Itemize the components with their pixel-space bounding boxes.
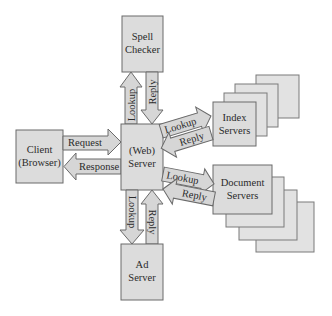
ad-reply-arrow: Reply bbox=[141, 190, 163, 244]
ad-server-label-line1: Ad bbox=[136, 259, 150, 270]
web-server-label-line2: Server bbox=[128, 158, 156, 169]
spell-checker-label-line1: Spell bbox=[132, 31, 154, 42]
spell-checker-node: Spell Checker bbox=[122, 16, 163, 72]
document-servers-node: Document Servers bbox=[213, 165, 314, 252]
spell-lookup-label: Lookup bbox=[126, 89, 137, 122]
document-servers-label-line1: Document bbox=[221, 177, 265, 188]
spell-checker-label-line2: Checker bbox=[125, 44, 160, 55]
request-label: Request bbox=[68, 137, 102, 148]
ad-server-label-line2: Server bbox=[128, 272, 156, 283]
client-label-line2: (Browser) bbox=[18, 157, 61, 169]
web-search-architecture-diagram: Spell Checker Lookup Reply Client (Brows… bbox=[0, 0, 332, 316]
response-label: Response bbox=[79, 161, 120, 172]
spell-reply-arrow: Reply bbox=[141, 72, 163, 124]
client-label-line1: Client bbox=[27, 144, 53, 155]
index-servers-label-line2: Servers bbox=[219, 125, 251, 136]
web-server-label-line1: (Web) bbox=[129, 145, 155, 157]
ad-lookup-label: Lookup bbox=[127, 196, 138, 229]
client-node: Client (Browser) bbox=[16, 130, 63, 183]
ad-server-node: Ad Server bbox=[121, 244, 163, 300]
spell-lookup-arrow: Lookup bbox=[120, 72, 142, 124]
spell-reply-label: Reply bbox=[147, 79, 158, 105]
ad-lookup-arrow: Lookup bbox=[120, 190, 144, 244]
index-servers-label-line1: Index bbox=[223, 112, 248, 123]
response-arrow: Response bbox=[64, 153, 121, 180]
ad-reply-label: Reply bbox=[147, 209, 158, 235]
index-server-stack-1 bbox=[213, 102, 256, 146]
index-servers-node: Index Servers bbox=[213, 75, 299, 146]
document-servers-label-line2: Servers bbox=[227, 190, 259, 201]
web-server-node: (Web) Server bbox=[121, 124, 163, 190]
request-arrow: Request bbox=[63, 129, 121, 155]
